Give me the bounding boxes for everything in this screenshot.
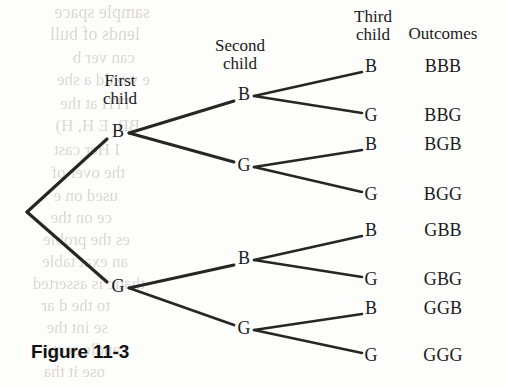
branch-level2-to-level3-B	[254, 72, 362, 96]
column-header-line-1: Third	[323, 8, 423, 26]
tree-node-level3-1-G: G	[362, 106, 380, 125]
tree-node-level3-2-B: B	[362, 135, 380, 154]
branch-level2-to-level3-B	[254, 150, 362, 167]
tree-node-level2-3-G: G	[235, 319, 253, 338]
outcome-label-BGB: BGB	[413, 135, 473, 154]
outcome-label-BGG: BGG	[413, 185, 473, 204]
column-header-line-2: child	[70, 90, 170, 108]
tree-node-level1-0-B: B	[109, 122, 127, 141]
figure-caption: Figure 11-3	[31, 341, 129, 363]
branch-level1-to-level2-G	[129, 288, 234, 325]
branch-level2-to-level3-G	[254, 96, 362, 113]
column-header-line-2: child	[190, 55, 290, 73]
outcome-label-GBG: GBG	[413, 270, 473, 289]
outcome-label-BBG: BBG	[413, 106, 473, 125]
tree-node-level2-2-B: B	[235, 249, 253, 268]
tree-node-level3-7-G: G	[362, 346, 380, 365]
branch-level2-to-level3-G	[254, 330, 362, 353]
branch-level1-to-level2-G	[129, 133, 234, 162]
tree-node-level3-0-B: B	[362, 57, 380, 76]
branch-root-to-level1-G	[27, 212, 107, 282]
column-header-first-child: Firstchild	[70, 72, 170, 108]
outcome-label-GGG: GGG	[413, 346, 473, 365]
column-header-outcomes: Outcomes	[393, 25, 493, 43]
tree-node-level2-1-G: G	[235, 156, 253, 175]
tree-node-level3-4-B: B	[362, 221, 380, 240]
branch-root-to-level1-B	[27, 139, 107, 212]
outcome-label-GGB: GGB	[413, 299, 473, 318]
column-header-second-child: Secondchild	[190, 37, 290, 73]
outcome-label-BBB: BBB	[413, 57, 473, 76]
column-header-line-1: Outcomes	[393, 25, 493, 43]
tree-node-level3-6-B: B	[362, 299, 380, 318]
outcome-label-GBB: GBB	[413, 221, 473, 240]
tree-node-level1-1-G: G	[109, 277, 127, 296]
tree-node-level3-3-G: G	[362, 185, 380, 204]
branch-level2-to-level3-G	[254, 167, 362, 192]
branch-level2-to-level3-B	[254, 314, 362, 330]
tree-node-level2-0-B: B	[235, 85, 253, 104]
branch-level1-to-level2-B	[129, 265, 234, 288]
figure-page: sample spacelends of bullcan ver be woul…	[0, 0, 506, 386]
branch-level2-to-level3-G	[254, 260, 362, 277]
tree-node-level3-5-G: G	[362, 270, 380, 289]
column-header-line-1: First	[70, 72, 170, 90]
column-header-line-1: Second	[190, 37, 290, 55]
branch-level2-to-level3-B	[254, 236, 362, 260]
